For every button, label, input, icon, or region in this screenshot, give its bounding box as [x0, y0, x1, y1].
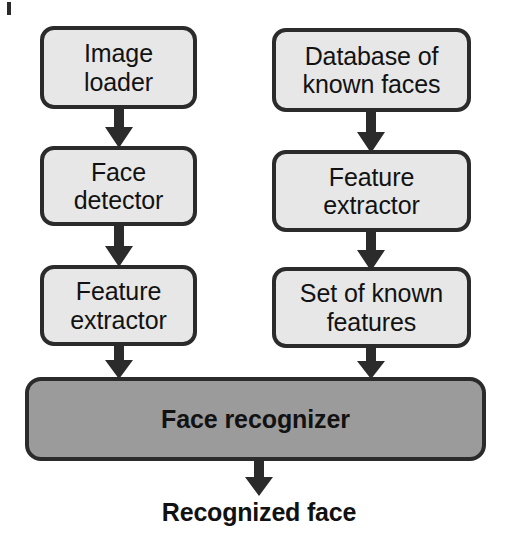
node-feature-extractor-right-label: Feature extractor [317, 163, 425, 220]
arrow-feature-extractor-to-set-of-known-features [356, 230, 386, 272]
node-face-detector[interactable]: Face detector [40, 146, 197, 226]
arrow-set-of-known-features-to-face-recognizer [356, 346, 386, 380]
arrow-feature-extractor-to-face-recognizer [104, 344, 134, 380]
node-set-of-known-features[interactable]: Set of known features [272, 267, 471, 348]
diagram-canvas: Image loader Face detector Feature extra… [0, 0, 518, 534]
node-database-of-known-faces-label: Database of known faces [297, 42, 447, 99]
node-face-detector-label: Face detector [68, 158, 170, 215]
node-face-recognizer-label: Face recognizer [155, 405, 356, 434]
node-face-recognizer[interactable]: Face recognizer [25, 377, 486, 461]
node-set-of-known-features-label: Set of known features [294, 279, 449, 336]
output-label-recognized-face: Recognized face [0, 498, 518, 527]
arrow-database-to-feature-extractor [356, 110, 386, 154]
output-label-text: Recognized face [162, 498, 356, 526]
arrow-image-loader-to-face-detector [104, 107, 134, 149]
node-database-of-known-faces[interactable]: Database of known faces [272, 28, 471, 112]
arrow-face-recognizer-to-output [244, 459, 274, 497]
node-feature-extractor-left[interactable]: Feature extractor [40, 265, 197, 346]
scan-artifact-mark [7, 2, 11, 15]
node-feature-extractor-right[interactable]: Feature extractor [272, 150, 471, 232]
node-image-loader[interactable]: Image loader [40, 26, 197, 109]
node-image-loader-label: Image loader [78, 39, 159, 96]
node-feature-extractor-left-label: Feature extractor [64, 277, 172, 334]
arrow-face-detector-to-feature-extractor [104, 224, 134, 268]
